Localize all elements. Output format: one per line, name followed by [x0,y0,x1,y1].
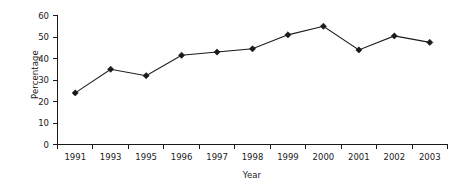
x-tick-label: 1991 [64,152,86,162]
data-series-line [75,26,430,93]
chart-plot-area: 0102030405060 19911993199519961997199819… [0,0,458,192]
x-tick-label: 1998 [242,152,264,162]
data-point-marker [178,52,184,58]
data-point-marker [249,46,255,52]
data-point-marker [391,33,397,39]
x-tick-label: 2001 [348,152,370,162]
x-tick-label: 2003 [419,152,441,162]
x-tick-label: 2002 [383,152,405,162]
data-point-marker [214,49,220,55]
y-tick-label: 20 [38,97,49,107]
x-tick-label: 1993 [100,152,122,162]
y-axis-ticks [53,16,58,145]
data-point-marker [108,66,114,72]
x-tick-label: 1996 [171,152,193,162]
x-tick-label: 1995 [135,152,157,162]
x-axis-ticks [58,145,448,150]
data-point-marker [143,73,149,79]
x-axis-tick-labels: 1991199319951996199719981999200020012002… [64,152,440,162]
data-point-marker [356,47,362,53]
data-series-markers [72,23,433,96]
line-chart-figure: Percentage 0102030405060 199119931995199… [0,0,458,192]
y-tick-label: 60 [38,11,49,21]
data-point-marker [285,32,291,38]
y-tick-label: 0 [44,140,49,150]
y-tick-label: 50 [38,32,49,42]
y-tick-label: 40 [38,54,49,64]
y-axis-tick-labels: 0102030405060 [38,11,49,150]
x-tick-label: 1999 [277,152,299,162]
x-tick-label: 2000 [313,152,335,162]
data-point-marker [320,23,326,29]
y-tick-label: 10 [38,118,49,128]
x-tick-label: 1997 [206,152,228,162]
data-point-marker [72,90,78,96]
data-point-marker [427,39,433,45]
y-tick-label: 30 [38,75,49,85]
x-axis-title: Year [57,170,447,180]
